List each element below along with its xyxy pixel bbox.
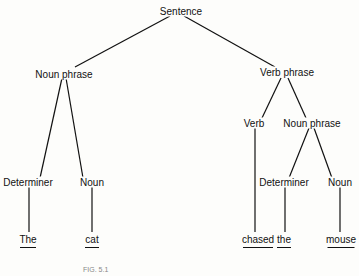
word-underline — [20, 247, 36, 248]
node-determiner-subject: Determiner — [2, 177, 53, 188]
tree-edges — [0, 0, 359, 276]
node-verb-phrase: Verb phrase — [259, 67, 315, 78]
word-underline — [243, 247, 273, 248]
word-the-subject: The — [19, 234, 36, 245]
node-noun-phrase-object: Noun phrase — [282, 118, 341, 129]
figure-caption: FIG. 5.1 — [83, 266, 108, 273]
node-sentence: Sentence — [159, 6, 203, 17]
node-determiner-object: Determiner — [258, 177, 309, 188]
node-verb: Verb — [243, 118, 266, 129]
word-underline — [85, 247, 99, 248]
node-noun-phrase-subject: Noun phrase — [34, 69, 93, 80]
word-mouse: mouse — [326, 234, 356, 245]
word-cat: cat — [85, 234, 98, 245]
node-noun-subject: Noun — [79, 177, 105, 188]
word-chased: chased — [242, 234, 274, 245]
word-underline — [328, 247, 355, 248]
node-noun-object: Noun — [327, 177, 353, 188]
word-underline — [277, 247, 291, 248]
word-the-object: the — [277, 234, 291, 245]
